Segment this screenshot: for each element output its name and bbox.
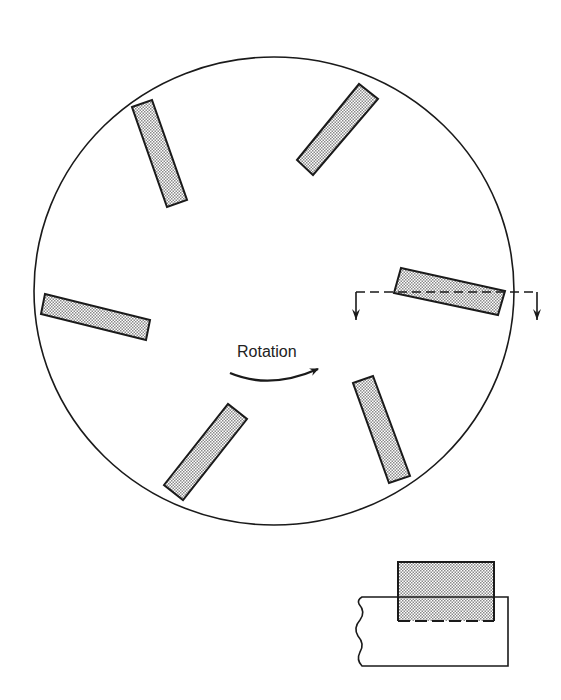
blade-top-right (297, 84, 378, 175)
section-view (356, 562, 508, 666)
blade-left (41, 294, 150, 340)
blade-top-left (132, 100, 187, 207)
blade-bottom-right (353, 376, 410, 483)
disc-diagram: Rotation (0, 0, 561, 700)
blades (41, 84, 505, 500)
blade-bottom-left (164, 404, 247, 500)
rotation-label: Rotation (237, 343, 297, 360)
curved-arrow-icon (230, 369, 318, 381)
section-blade (398, 562, 494, 621)
